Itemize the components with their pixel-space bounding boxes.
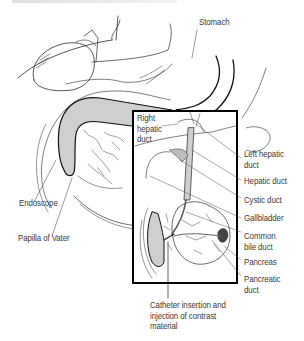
label-right-hepatic-duct: Right hepatic duct <box>137 113 162 145</box>
liver-outline <box>18 40 112 78</box>
label-left-hepatic-duct: Left hepatic duct <box>244 149 284 170</box>
label-catheter-insertion: Catheter insertion and injection of cont… <box>150 300 226 332</box>
label-common-bile-duct: Common bile duct <box>244 231 276 252</box>
stomach-leader <box>192 30 197 58</box>
label-endoscope: Endoscope <box>19 198 58 209</box>
label-pancreatic-duct: Pancreatic duct <box>244 274 280 295</box>
label-gallbladder: Gallbladder <box>244 213 283 224</box>
label-hepatic-duct: Hepatic duct <box>244 176 287 187</box>
label-cystic-duct: Cystic duct <box>244 195 282 206</box>
label-stomach: Stomach <box>199 17 230 28</box>
label-papilla-of-vater: Papilla of Vater <box>18 233 70 244</box>
label-pancreas: Pancreas <box>244 257 277 268</box>
gallbladder-upper <box>33 43 94 91</box>
stomach-curve-inner <box>176 56 219 110</box>
